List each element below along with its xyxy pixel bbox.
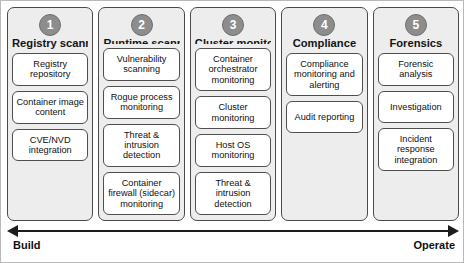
capability-card[interactable]: Threat & intrusion detection xyxy=(195,172,271,215)
capability-card-label: Threat & intrusion detection xyxy=(107,130,175,161)
capability-card-label: Investigation xyxy=(382,102,450,112)
capability-card[interactable]: Forensic analysis xyxy=(378,53,454,86)
capability-card[interactable]: Vulnerability scanning xyxy=(103,48,179,81)
stage-number-badge-5: 5 xyxy=(405,14,427,36)
stage-title-4: Compliance xyxy=(286,37,362,49)
stage-badge-row-2: 2 xyxy=(103,14,179,36)
capability-card-label: Forensic analysis xyxy=(382,59,450,80)
stage-title-3: Cluster monitoring xyxy=(195,37,271,44)
capability-card[interactable]: Threat & intrusion detection xyxy=(103,124,179,167)
capability-card-label: Threat & intrusion detection xyxy=(199,178,267,209)
stage-column-2[interactable]: 2 Runtime scanning Vulnerability scannin… xyxy=(98,7,184,221)
stage-column-5[interactable]: 5 Forensics Forensic analysis Investigat… xyxy=(373,7,459,221)
axis-line xyxy=(17,230,449,232)
capability-card[interactable]: CVE/NVD integration xyxy=(12,129,88,162)
stage-column-3[interactable]: 3 Cluster monitoring Container orchestra… xyxy=(190,7,276,221)
stage-title-1: Registry scanning xyxy=(12,37,88,49)
stage-title-5: Forensics xyxy=(378,37,454,49)
stage-number-badge-4: 4 xyxy=(313,14,335,36)
capability-card[interactable]: Container orchestrator monitoring xyxy=(195,48,271,91)
stage-card-list-3: Container orchestrator monitoring Cluste… xyxy=(195,48,271,215)
stage-columns: 1 Registry scanning Registry repository … xyxy=(7,7,459,221)
arrow-left-icon xyxy=(7,225,18,237)
capability-card-label: Host OS monitoring xyxy=(199,140,267,161)
capability-card[interactable]: Container firewall (sidecar) monitoring xyxy=(103,172,179,215)
capability-card-label: Container image content xyxy=(16,97,84,118)
pipeline-diagram: 1 Registry scanning Registry repository … xyxy=(0,0,464,263)
capability-card-label: Incident response integration xyxy=(382,134,450,165)
stage-card-list-4: Compliance monitoring and alerting Audit… xyxy=(286,53,362,133)
stage-title-2: Runtime scanning xyxy=(103,37,179,44)
stage-number-badge-3: 3 xyxy=(222,14,244,36)
capability-card-label: CVE/NVD integration xyxy=(16,135,84,156)
stage-card-list-5: Forensic analysis Investigation Incident… xyxy=(378,53,454,171)
stage-column-4[interactable]: 4 Compliance Compliance monitoring and a… xyxy=(281,7,367,221)
build-operate-axis: Build Operate xyxy=(7,225,459,259)
capability-card[interactable]: Registry repository xyxy=(12,53,88,86)
capability-card[interactable]: Rogue process monitoring xyxy=(103,86,179,119)
stage-badge-row-3: 3 xyxy=(195,14,271,36)
capability-card[interactable]: Container image content xyxy=(12,91,88,124)
stage-card-list-2: Vulnerability scanning Rogue process mon… xyxy=(103,48,179,215)
stage-card-list-1: Registry repository Container image cont… xyxy=(12,53,88,161)
stage-number-badge-1: 1 xyxy=(39,14,61,36)
capability-card[interactable]: Compliance monitoring and alerting xyxy=(286,53,362,96)
capability-card-label: Cluster monitoring xyxy=(199,102,267,123)
capability-card[interactable]: Incident response integration xyxy=(378,128,454,171)
capability-card[interactable]: Cluster monitoring xyxy=(195,96,271,129)
stage-column-1[interactable]: 1 Registry scanning Registry repository … xyxy=(7,7,93,221)
capability-card[interactable]: Host OS monitoring xyxy=(195,134,271,167)
arrow-right-icon xyxy=(448,225,459,237)
capability-card-label: Registry repository xyxy=(16,59,84,80)
capability-card-label: Container orchestrator monitoring xyxy=(199,54,267,85)
capability-card-label: Container firewall (sidecar) monitoring xyxy=(107,178,175,209)
stage-badge-row-1: 1 xyxy=(12,14,88,36)
stage-badge-row-4: 4 xyxy=(286,14,362,36)
capability-card-label: Compliance monitoring and alerting xyxy=(290,59,358,90)
capability-card[interactable]: Audit reporting xyxy=(286,101,362,133)
capability-card-label: Rogue process monitoring xyxy=(107,92,175,113)
stage-number-badge-2: 2 xyxy=(131,14,153,36)
capability-card-label: Vulnerability scanning xyxy=(107,54,175,75)
axis-label-operate: Operate xyxy=(413,239,455,251)
capability-card[interactable]: Investigation xyxy=(378,91,454,123)
axis-label-build: Build xyxy=(13,239,41,251)
capability-card-label: Audit reporting xyxy=(290,112,358,122)
stage-badge-row-5: 5 xyxy=(378,14,454,36)
